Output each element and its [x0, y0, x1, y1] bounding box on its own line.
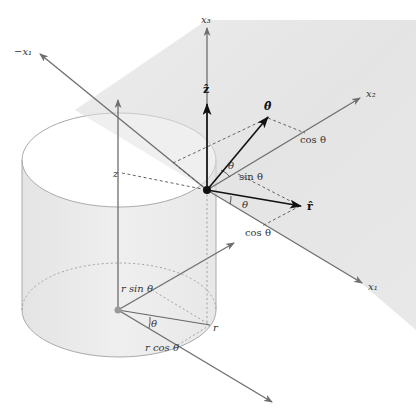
- theta-hat-label: θ̂: [264, 100, 272, 113]
- x2-label: x₂: [366, 88, 376, 99]
- coordinate-diagram: x₃ x₂ x₁ −x₁ ẑ θ̂ r̂ z θ sin θ cos θ θ c…: [0, 0, 416, 417]
- r-cos-theta-label: r cos θ: [145, 342, 179, 353]
- theta-upper-label: θ: [228, 160, 234, 171]
- cos-theta-lower-label: cos θ: [245, 227, 271, 238]
- x3-label: x₃: [201, 14, 211, 25]
- theta-lower-label: θ: [242, 199, 248, 210]
- x1-label: x₁: [368, 281, 378, 292]
- r-hat-label: r̂: [307, 200, 313, 213]
- theta-base-label: θ: [151, 318, 157, 329]
- origin-dot: [203, 186, 211, 194]
- z-hat-label: ẑ: [203, 83, 209, 96]
- neg-x1-label: −x₁: [14, 46, 32, 57]
- cos-theta-upper-label: cos θ: [300, 134, 326, 145]
- r-sin-theta-label: r sin θ: [121, 283, 153, 294]
- sin-theta-label: sin θ: [239, 171, 263, 182]
- base-dot: [115, 307, 122, 314]
- r-label: r: [213, 322, 219, 333]
- z-label: z: [112, 168, 119, 179]
